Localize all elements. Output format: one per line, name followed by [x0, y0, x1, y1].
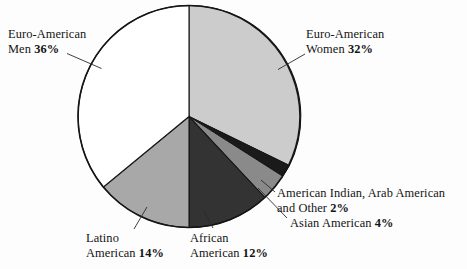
pie-label-line1: American Indian, Arab American — [277, 186, 445, 200]
pie-label-line1: Euro-American — [8, 27, 86, 41]
pie-label-line2: and Other — [277, 201, 327, 215]
pie-label-line2: Men — [8, 42, 31, 56]
pie-label-percent: 12% — [243, 246, 268, 260]
pie-label-percent: 14% — [139, 246, 164, 260]
pie-label-percent: 36% — [34, 42, 59, 56]
pie-label-euro-american-men: Euro-American Men 36% — [8, 27, 86, 56]
pie-label-percent: 4% — [375, 216, 394, 230]
pie-label-line2: American — [86, 246, 136, 260]
pie-label-asian-american: Asian American 4% — [290, 216, 394, 231]
pie-label-african-american: African American 12% — [190, 231, 268, 260]
pie-label-american-indian-arab-american-and-other: American Indian, Arab American and Other… — [277, 186, 445, 215]
pie-label-line1: African — [190, 231, 229, 245]
pie-label-line2: Women — [306, 42, 345, 56]
pie-label-line1: Asian American — [290, 216, 372, 230]
pie-label-line1: Euro-American — [306, 27, 384, 41]
pie-label-line1: Latino — [86, 231, 119, 245]
pie-label-euro-american-women: Euro-American Women 32% — [306, 27, 384, 56]
chart-stage: Euro-American Men 36% Euro-American Wome… — [0, 0, 467, 269]
pie-label-latino-american: Latino American 14% — [86, 231, 164, 260]
pie-label-percent: 2% — [330, 201, 349, 215]
pie-label-percent: 32% — [348, 42, 373, 56]
pie-label-line2: American — [190, 246, 240, 260]
